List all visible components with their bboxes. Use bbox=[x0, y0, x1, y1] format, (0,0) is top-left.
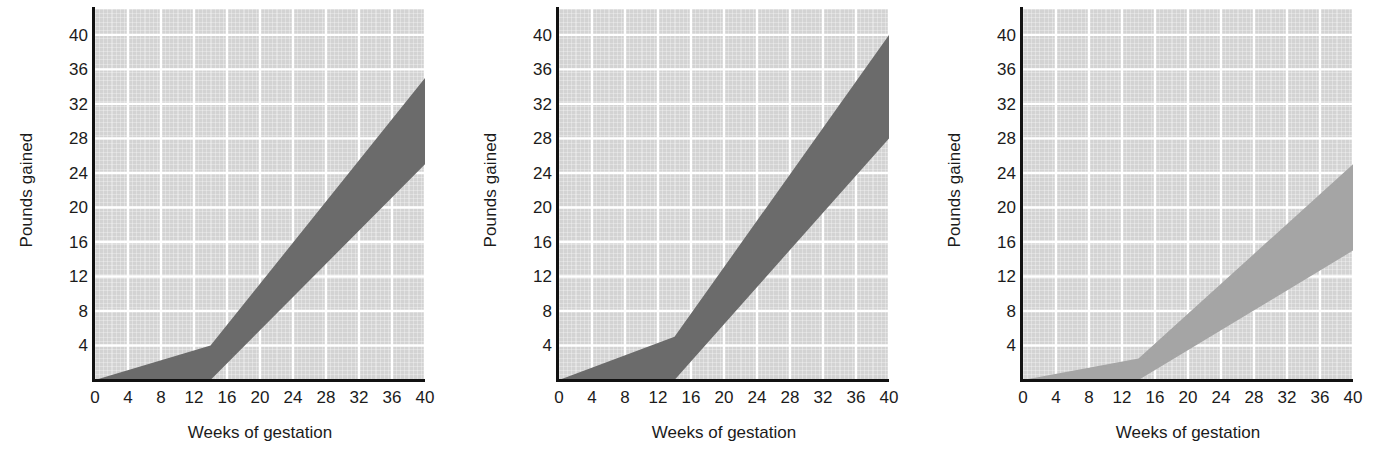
x-tick-label: 28 bbox=[317, 389, 336, 406]
y-tick-label: 40 bbox=[44, 26, 88, 43]
plot-area-1 bbox=[95, 9, 425, 380]
x-tick-label: 12 bbox=[1113, 389, 1132, 406]
y-tick-label: 20 bbox=[972, 199, 1016, 216]
y-tick-label: 16 bbox=[508, 233, 552, 250]
y-tick-label: 24 bbox=[972, 164, 1016, 181]
y-tick-label: 8 bbox=[972, 302, 1016, 319]
y-tick-label: 16 bbox=[44, 233, 88, 250]
x-tick-label: 8 bbox=[156, 389, 165, 406]
x-axis-line-3 bbox=[1020, 379, 1353, 382]
y-tick-label: 28 bbox=[972, 130, 1016, 147]
y-tick-label: 8 bbox=[508, 302, 552, 319]
x-tick-label: 16 bbox=[1146, 389, 1165, 406]
x-tick-label: 0 bbox=[90, 389, 99, 406]
x-tick-labels-3: 0481216202428323640 bbox=[928, 389, 1392, 413]
y-tick-label: 28 bbox=[44, 130, 88, 147]
y-tick-label: 36 bbox=[508, 61, 552, 78]
x-tick-label: 8 bbox=[1084, 389, 1093, 406]
x-tick-label: 32 bbox=[350, 389, 369, 406]
x-tick-label: 16 bbox=[682, 389, 701, 406]
x-axis-title-1: Weeks of gestation bbox=[95, 424, 425, 441]
x-tick-label: 20 bbox=[1179, 389, 1198, 406]
y-tick-label: 4 bbox=[972, 337, 1016, 354]
y-tick-label: 20 bbox=[508, 199, 552, 216]
x-axis-line-1 bbox=[92, 379, 425, 382]
x-tick-label: 28 bbox=[1245, 389, 1264, 406]
y-tick-label: 40 bbox=[972, 26, 1016, 43]
x-tick-label: 12 bbox=[185, 389, 204, 406]
y-axis-title-3: Pounds gained bbox=[942, 0, 968, 380]
x-tick-label: 40 bbox=[880, 389, 899, 406]
y-tick-label: 24 bbox=[508, 164, 552, 181]
y-tick-label: 12 bbox=[44, 268, 88, 285]
y-tick-label: 32 bbox=[44, 95, 88, 112]
y-axis-line-3 bbox=[1020, 7, 1023, 382]
y-tick-label: 20 bbox=[44, 199, 88, 216]
x-tick-label: 36 bbox=[1311, 389, 1330, 406]
x-tick-label: 40 bbox=[416, 389, 435, 406]
x-axis-line-2 bbox=[556, 379, 889, 382]
y-tick-label: 24 bbox=[44, 164, 88, 181]
x-tick-label: 16 bbox=[218, 389, 237, 406]
y-tick-label: 36 bbox=[44, 61, 88, 78]
x-axis-title-2: Weeks of gestation bbox=[559, 424, 889, 441]
x-tick-label: 20 bbox=[715, 389, 734, 406]
x-tick-label: 24 bbox=[284, 389, 303, 406]
x-tick-labels-1: 0481216202428323640 bbox=[0, 389, 464, 413]
x-tick-label: 36 bbox=[847, 389, 866, 406]
y-tick-label: 28 bbox=[508, 130, 552, 147]
y-axis-title-2: Pounds gained bbox=[478, 0, 504, 380]
y-tick-label: 36 bbox=[972, 61, 1016, 78]
chart-panel-3: Pounds gained 481216202428323640 0481216… bbox=[928, 0, 1392, 454]
y-tick-label: 32 bbox=[508, 95, 552, 112]
y-axis-line-1 bbox=[92, 7, 95, 382]
x-axis-title-3: Weeks of gestation bbox=[1023, 424, 1353, 441]
x-tick-label: 12 bbox=[649, 389, 668, 406]
x-tick-label: 8 bbox=[620, 389, 629, 406]
chart-panel-2: Pounds gained 481216202428323640 0481216… bbox=[464, 0, 928, 454]
x-tick-label: 24 bbox=[1212, 389, 1231, 406]
y-tick-label: 16 bbox=[972, 233, 1016, 250]
x-tick-label: 40 bbox=[1344, 389, 1363, 406]
x-tick-label: 24 bbox=[748, 389, 767, 406]
y-tick-label: 12 bbox=[508, 268, 552, 285]
y-tick-labels-1: 481216202428323640 bbox=[44, 9, 88, 380]
y-tick-labels-3: 481216202428323640 bbox=[972, 9, 1016, 380]
major-gridlines-2 bbox=[559, 9, 889, 380]
y-tick-label: 4 bbox=[508, 337, 552, 354]
y-tick-labels-2: 481216202428323640 bbox=[508, 9, 552, 380]
x-tick-label: 4 bbox=[587, 389, 596, 406]
plot-area-3 bbox=[1023, 9, 1353, 380]
plot-svg-1 bbox=[95, 9, 425, 380]
x-tick-label: 32 bbox=[814, 389, 833, 406]
plot-area-2 bbox=[559, 9, 889, 380]
x-tick-label: 4 bbox=[1051, 389, 1060, 406]
x-tick-label: 0 bbox=[554, 389, 563, 406]
y-tick-label: 8 bbox=[44, 302, 88, 319]
x-tick-label: 28 bbox=[781, 389, 800, 406]
chart-panel-1: Pounds gained 481216202428323640 0481216… bbox=[0, 0, 464, 454]
y-tick-label: 4 bbox=[44, 337, 88, 354]
y-tick-label: 32 bbox=[972, 95, 1016, 112]
y-axis-title-1: Pounds gained bbox=[14, 0, 40, 380]
y-tick-label: 12 bbox=[972, 268, 1016, 285]
y-tick-label: 40 bbox=[508, 26, 552, 43]
plot-svg-3 bbox=[1023, 9, 1353, 380]
x-tick-label: 20 bbox=[251, 389, 270, 406]
x-tick-label: 4 bbox=[123, 389, 132, 406]
weight-gain-charts-row: Pounds gained 481216202428323640 0481216… bbox=[0, 0, 1392, 454]
x-tick-labels-2: 0481216202428323640 bbox=[464, 389, 928, 413]
x-tick-label: 36 bbox=[383, 389, 402, 406]
x-tick-label: 0 bbox=[1018, 389, 1027, 406]
x-tick-label: 32 bbox=[1278, 389, 1297, 406]
y-axis-line-2 bbox=[556, 7, 559, 382]
plot-svg-2 bbox=[559, 9, 889, 380]
